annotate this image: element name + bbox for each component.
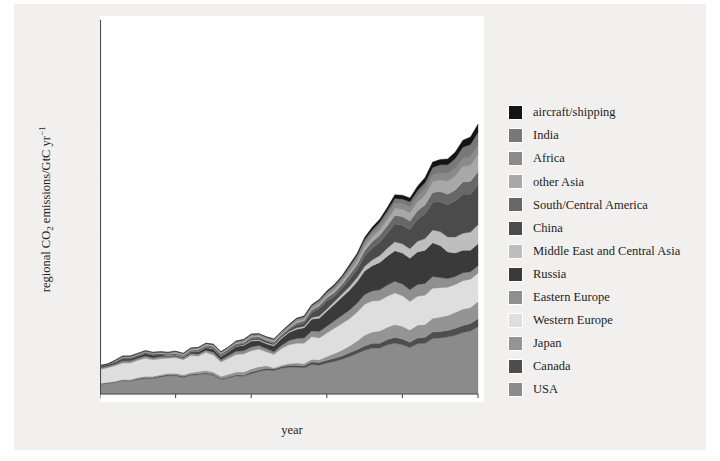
legend-item: Canada	[508, 355, 708, 378]
legend-item: other Asia	[508, 170, 708, 193]
y-axis-title: regional CO2 emissions/GtC yr−1	[37, 59, 56, 359]
stacked-area-chart: 01234567190019201940196019802000	[100, 16, 484, 402]
x-tick-label: 1940	[238, 399, 264, 402]
legend-label: Western Europe	[533, 314, 613, 327]
x-tick-label: 1960	[314, 399, 340, 402]
legend-label: other Asia	[533, 176, 584, 189]
legend-item: Eastern Europe	[508, 286, 708, 309]
legend-label: South/Central America	[533, 199, 648, 212]
plot-area: 01234567190019201940196019802000	[100, 16, 484, 402]
legend-label: Middle East and Central Asia	[533, 245, 680, 258]
legend-swatch	[508, 174, 523, 189]
legend-label: USA	[533, 383, 558, 396]
legend-item: aircraft/shipping	[508, 101, 708, 124]
legend-swatch	[508, 336, 523, 351]
legend-swatch	[508, 313, 523, 328]
x-axis-title: year	[100, 423, 484, 438]
legend-label: China	[533, 222, 563, 235]
legend-swatch	[508, 244, 523, 259]
legend-label: Japan	[533, 337, 561, 350]
figure-panel: 01234567190019201940196019802000 regiona…	[14, 4, 706, 450]
legend-label: Russia	[533, 268, 566, 281]
legend-item: Middle East and Central Asia	[508, 240, 708, 263]
legend-label: Eastern Europe	[533, 291, 610, 304]
legend-item: Japan	[508, 332, 708, 355]
x-tick-label: 1980	[389, 399, 415, 402]
legend-label: Canada	[533, 360, 570, 373]
x-tick-label: 1920	[163, 399, 189, 402]
legend: aircraft/shippingIndiaAfricaother AsiaSo…	[508, 101, 708, 401]
x-tick-label: 1900	[100, 399, 113, 402]
legend-item: India	[508, 124, 708, 147]
legend-swatch	[508, 290, 523, 305]
legend-swatch	[508, 221, 523, 236]
legend-label: India	[533, 129, 559, 142]
legend-item: Africa	[508, 147, 708, 170]
legend-item: China	[508, 216, 708, 239]
legend-swatch	[508, 128, 523, 143]
legend-swatch	[508, 151, 523, 166]
y-axis-title-sup: −1	[37, 126, 47, 136]
legend-item: Russia	[508, 263, 708, 286]
legend-label: aircraft/shipping	[533, 106, 616, 119]
y-axis-title-sub: 2	[45, 226, 55, 231]
legend-item: South/Central America	[508, 193, 708, 216]
y-axis-title-rest: emissions/GtC yr	[39, 136, 53, 226]
legend-label: Africa	[533, 152, 565, 165]
legend-swatch	[508, 197, 523, 212]
legend-swatch	[508, 382, 523, 397]
y-axis-title-main: regional CO	[39, 231, 53, 292]
legend-item: USA	[508, 378, 708, 401]
legend-item: Western Europe	[508, 309, 708, 332]
legend-swatch	[508, 105, 523, 120]
legend-swatch	[508, 359, 523, 374]
legend-swatch	[508, 267, 523, 282]
x-tick-label: 2000	[465, 399, 484, 402]
